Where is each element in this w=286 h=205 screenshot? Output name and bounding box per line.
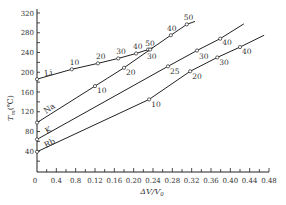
point-label: 20 [192,72,202,81]
point-label: 10 [70,58,80,67]
point-label: 50 [145,39,155,48]
x-tick-label: 0.28 [165,177,181,185]
data-point-marker [35,121,38,124]
point-label: 10 [97,86,107,95]
x-tick-label: 0.8 [70,177,81,185]
point-label: 25 [170,67,180,76]
point-label: 10 [151,100,161,109]
y-tick-label: 280 [21,29,34,37]
data-point-marker [35,138,38,141]
chart: 408012016020024028032000.40.80.120.160.2… [0,0,286,205]
y-tick-label: 160 [21,89,34,97]
series-name-na: Na [42,101,57,115]
x-tick-label: 0.16 [107,177,123,185]
y-axis-title: Tm(℃) [6,95,16,121]
data-point-marker [134,52,137,55]
series-line-k [37,24,244,140]
series-name-rb: Rb [43,137,57,150]
data-point-marker [185,23,188,26]
y-tick-label: 120 [21,108,34,116]
x-tick-label: 0.24 [145,177,161,185]
data-point-marker [117,57,120,60]
point-label: 50 [184,13,194,22]
x-tick-label: 0.12 [87,177,103,185]
point-label: 20 [96,52,106,61]
point-label: 40 [133,42,143,51]
data-point-marker [70,68,73,71]
point-label: 40 [242,47,252,56]
series-name-li: Li [44,68,53,78]
y-tick-label: 40 [25,148,34,156]
x-tick-label: 0.36 [203,177,219,185]
point-label: 30 [116,47,126,56]
point-label: 20 [126,68,136,77]
y-tick-label: 80 [25,128,34,136]
point-label: 40 [167,24,177,33]
data-point-marker [35,150,38,153]
series-name-k: K [44,124,55,135]
x-tick-label: 0.20 [126,177,142,185]
x-tick-label: 0.4 [51,177,63,185]
x-axis-title: ΔV/V0 [139,187,164,197]
data-point-marker [169,34,172,37]
x-tick-label: 0 [33,177,37,185]
axes: 408012016020024028032000.40.80.120.160.2… [21,9,277,185]
data-point-marker [35,78,38,81]
point-label: 40 [222,38,232,47]
x-tick-label: 0.40 [223,177,239,185]
y-tick-label: 240 [21,49,34,57]
x-tick-label: 0.32 [184,177,200,185]
point-label: 30 [219,58,229,67]
x-tick-label: 0.44 [242,177,258,185]
x-tick-label: 0.48 [261,177,277,185]
data-point-marker [96,62,99,65]
labels: 1020304050Li1020304050Na253040K10203040R… [42,13,252,149]
point-label: 30 [147,52,157,61]
y-tick-label: 320 [21,10,34,18]
point-label: 30 [199,52,209,61]
y-tick-label: 200 [21,69,34,77]
